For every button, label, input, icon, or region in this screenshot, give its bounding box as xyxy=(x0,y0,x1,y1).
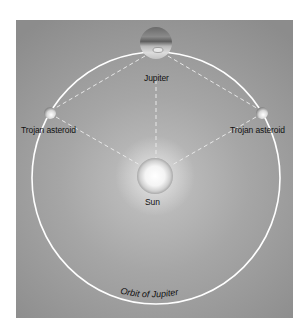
sun-icon xyxy=(137,158,173,194)
sun-label: Sun xyxy=(145,197,160,207)
jupiter-label: Jupiter xyxy=(144,73,169,83)
line-jupiter-trojan-left xyxy=(52,56,145,110)
orbit-label: Orbit of Jupiter xyxy=(120,286,180,300)
line-jupiter-trojan-right xyxy=(168,56,260,110)
trojan-asteroid-left-icon xyxy=(44,107,56,119)
trojan-asteroid-right-icon xyxy=(256,107,268,119)
trojan-right-label: Trojan asteroid xyxy=(230,125,285,135)
orbit-diagram: Orbit of Jupiter xyxy=(0,0,307,333)
trojan-left-label: Trojan asteroid xyxy=(21,125,76,135)
jupiter-planet-icon xyxy=(140,27,172,59)
